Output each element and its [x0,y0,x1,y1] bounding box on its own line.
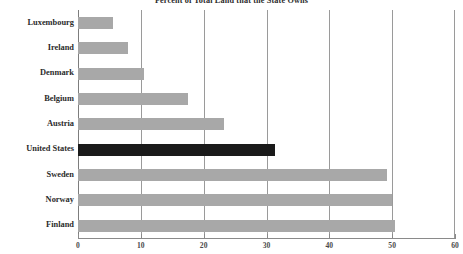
x-tick-mark-60 [455,234,456,239]
x-tick-label-10: 10 [126,241,156,250]
bar-row [78,35,455,60]
bar-row [78,61,455,86]
category-label-united-states: United States [0,144,74,154]
x-tick-mark-40 [329,234,330,239]
x-tick-mark-30 [267,234,268,239]
x-tick-mark-0 [78,234,79,239]
category-label-sweden: Sweden [0,170,74,180]
bar-denmark [78,68,144,80]
category-label-belgium: Belgium [0,94,74,104]
x-tick-label-0: 0 [63,241,93,250]
bar-chart: Percent of Total Land that the State Own… [0,0,463,254]
bar-row [78,187,455,212]
bar-row [78,111,455,136]
bar-belgium [78,93,188,105]
bar-row [78,137,455,162]
bar-norway [78,194,392,206]
category-label-denmark: Denmark [0,68,74,78]
category-label-luxembourg: Luxembourg [0,18,74,28]
bar-austria [78,118,224,130]
x-tick-label-40: 40 [314,241,344,250]
x-tick-label-20: 20 [189,241,219,250]
x-tick-label-50: 50 [377,241,407,250]
category-label-ireland: Ireland [0,43,74,53]
bar-sweden [78,169,387,181]
plot-area [78,10,455,238]
x-tick-label-60: 60 [440,241,463,250]
x-tick-mark-20 [204,234,205,239]
category-label-austria: Austria [0,119,74,129]
x-tick-mark-50 [392,234,393,239]
chart-title: Percent of Total Land that the State Own… [0,0,463,6]
bar-united-states [78,144,275,156]
bar-finland [78,220,395,232]
x-tick-mark-10 [141,234,142,239]
bar-row [78,86,455,111]
bar-row [78,10,455,35]
category-label-finland: Finland [0,220,74,230]
x-tick-label-30: 30 [252,241,282,250]
category-label-norway: Norway [0,195,74,205]
bar-ireland [78,42,128,54]
bar-luxembourg [78,17,113,29]
bar-row [78,162,455,187]
